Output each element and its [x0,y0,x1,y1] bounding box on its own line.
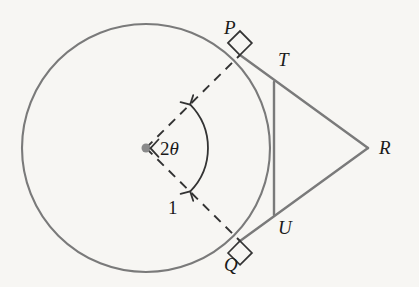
radius-length-label: 1 [168,198,178,217]
vertex-label-r: R [379,138,391,157]
angle-label-theta-symbol: θ [170,138,179,159]
angle-label-2theta: 2θ [160,139,179,158]
vertex-label-q: Q [224,255,238,274]
tangent-line-q-r [240,148,368,241]
dashed-radius-center-q [146,148,240,241]
angle-label-coefficient: 2 [160,138,170,159]
angle-arc-2theta [190,104,208,191]
dashed-radius-center-p [146,55,240,148]
vertex-label-t: T [278,50,289,69]
geometry-figure: P T R U Q 2θ 1 [0,0,419,287]
vertex-label-u: U [278,218,292,237]
tangent-line-p-r [240,55,368,148]
geometry-canvas [0,0,419,287]
vertex-label-p: P [224,18,236,37]
angle-arc-arrowhead-top [181,95,194,104]
angle-arc-arrowhead-bottom [181,191,194,200]
circle-center-dot [142,144,151,153]
